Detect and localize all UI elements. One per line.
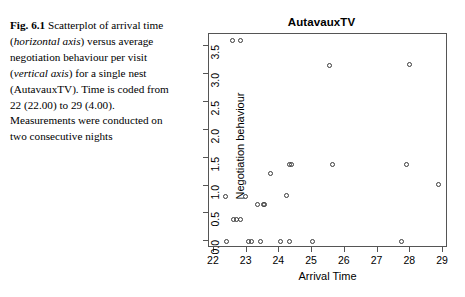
y-axis-tick bbox=[203, 157, 208, 158]
figure-page: Fig. 6.1 Scatterplot of arrival time (ho… bbox=[0, 0, 465, 297]
x-axis-tick bbox=[409, 247, 410, 252]
x-axis-tick-label: 25 bbox=[305, 254, 317, 266]
chart-title: AutavauxTV bbox=[178, 16, 465, 28]
y-axis-tick bbox=[203, 129, 208, 130]
data-point bbox=[310, 239, 315, 244]
x-axis-label: Arrival Time bbox=[208, 270, 447, 282]
x-axis-tick-label: 26 bbox=[338, 254, 350, 266]
figure-label: Fig. 6.1 bbox=[10, 19, 45, 31]
x-axis-tick-label: 28 bbox=[404, 254, 416, 266]
data-point bbox=[262, 202, 267, 207]
figure-caption-body: Scatterplot of arrival time (horizontal … bbox=[10, 19, 169, 142]
y-axis-tick bbox=[203, 45, 208, 46]
y-axis-tick-label: 2.0 bbox=[209, 129, 221, 144]
data-point bbox=[255, 202, 260, 207]
x-axis-tick bbox=[311, 247, 312, 252]
y-axis-tick-label: 1.0 bbox=[209, 185, 221, 200]
x-axis-tick bbox=[344, 247, 345, 252]
y-axis-tick-label: 0.5 bbox=[209, 212, 221, 227]
x-axis-tick-label: 22 bbox=[207, 254, 219, 266]
x-axis-tick-label: 23 bbox=[240, 254, 252, 266]
data-point bbox=[224, 239, 229, 244]
x-axis-tick-label: 27 bbox=[371, 254, 383, 266]
data-point bbox=[289, 162, 294, 167]
y-axis-tick bbox=[203, 212, 208, 213]
y-axis-tick-label: 2.5 bbox=[209, 101, 221, 116]
y-axis-tick bbox=[203, 101, 208, 102]
data-point bbox=[249, 239, 254, 244]
y-axis-tick-label: 3.0 bbox=[209, 73, 221, 88]
caption-segment: horizontal axis bbox=[14, 35, 81, 47]
data-point bbox=[407, 62, 412, 67]
figure-caption: Fig. 6.1 Scatterplot of arrival time (ho… bbox=[10, 18, 172, 145]
y-axis-tick bbox=[203, 73, 208, 74]
data-point bbox=[258, 239, 263, 244]
scatterplot-figure: AutavauxTV 22232425262728290.00.51.01.52… bbox=[178, 6, 465, 297]
data-point bbox=[436, 182, 441, 187]
x-axis-tick-label: 24 bbox=[273, 254, 285, 266]
y-axis-tick bbox=[203, 240, 208, 241]
data-point bbox=[330, 162, 335, 167]
x-axis-tick bbox=[278, 247, 279, 252]
data-point bbox=[287, 239, 292, 244]
y-axis-tick bbox=[203, 185, 208, 186]
x-axis-tick bbox=[442, 247, 443, 252]
y-axis-label: Negotiation behaviour bbox=[234, 39, 246, 253]
data-point bbox=[223, 194, 228, 199]
data-point bbox=[404, 162, 409, 167]
x-axis-tick-label: 29 bbox=[436, 254, 448, 266]
x-axis-tick bbox=[377, 247, 378, 252]
data-point bbox=[278, 239, 283, 244]
data-point bbox=[399, 239, 404, 244]
caption-segment: vertical axis bbox=[14, 67, 69, 79]
y-axis-tick-label: 0.0 bbox=[209, 240, 221, 255]
y-axis-tick-label: 3.5 bbox=[209, 45, 221, 60]
data-point bbox=[268, 171, 273, 176]
y-axis-tick-label: 1.5 bbox=[209, 157, 221, 172]
data-point bbox=[327, 63, 332, 68]
data-point bbox=[284, 193, 289, 198]
